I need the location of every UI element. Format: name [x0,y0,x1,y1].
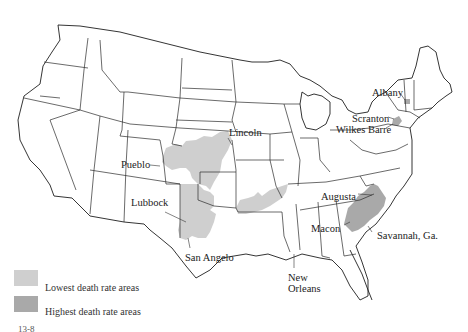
label-lincoln: Lincoln [229,127,262,138]
label-san-angelo: San Angelo [185,252,234,263]
label-macon: Macon [311,223,340,234]
legend-label-lowest: Lowest death rate areas [45,282,139,293]
label-new-orleans: New Orleans [288,272,328,294]
label-pueblo: Pueblo [121,159,150,170]
label-lubbock: Lubbock [131,197,168,208]
label-scranton: Scranton [352,113,389,124]
legend-swatch-highest [14,296,38,312]
label-savannah: Savannah, Ga. [377,230,438,241]
legend-swatch-lowest [14,270,38,286]
figure-caption-fragment: 13-8 [18,324,35,332]
lowest-death-rate-regions [162,131,288,240]
legend-label-highest: Highest death rate areas [45,306,141,317]
label-wilkes-barre: Wilkes Barre [336,124,391,135]
label-albany: Albany [372,87,403,98]
label-augusta: Augusta [321,191,356,202]
